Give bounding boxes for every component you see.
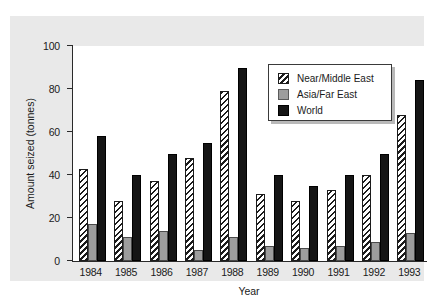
bar-asia-far-east-1991 <box>336 246 345 261</box>
bar-group-1985 <box>114 46 141 261</box>
bar-near-middle-east-1984 <box>79 169 88 261</box>
bar-near-middle-east-1991 <box>327 190 336 261</box>
bar-world-1984 <box>97 136 106 261</box>
bar-asia-far-east-1988 <box>229 237 238 261</box>
bar-asia-far-east-1986 <box>159 231 168 261</box>
y-tick-100: 100 <box>67 45 73 46</box>
bar-group-1986 <box>150 46 177 261</box>
bar-near-middle-east-1986 <box>150 181 159 261</box>
bar-asia-far-east-1984 <box>88 224 97 261</box>
bar-group-1984 <box>79 46 106 261</box>
y-tick-60: 60 <box>67 131 73 132</box>
y-tick-label-40: 40 <box>49 169 60 181</box>
bar-world-1985 <box>132 175 141 261</box>
legend-swatch-black-icon <box>278 105 289 116</box>
y-tick-0: 0 <box>67 260 73 261</box>
bar-near-middle-east-1990 <box>291 201 300 261</box>
y-tick-40: 40 <box>67 174 73 175</box>
bar-world-1991 <box>345 175 354 261</box>
y-axis-title: Amount seized (tonnes) <box>24 46 40 261</box>
bar-near-middle-east-1989 <box>256 194 265 261</box>
y-tick-80: 80 <box>67 88 73 89</box>
bar-world-1988 <box>238 68 247 262</box>
legend-item-world: World <box>278 102 391 118</box>
y-tick-label-60: 60 <box>49 126 60 138</box>
chart-panel: Amount seized (tonnes) 0 20 40 60 80 100 <box>10 16 424 281</box>
bar-near-middle-east-1993 <box>397 115 406 261</box>
bar-world-1989 <box>274 175 283 261</box>
bar-near-middle-east-1992 <box>362 175 371 261</box>
chart-legend: Near/Middle East Asia/Far East World <box>268 64 392 121</box>
bar-group-1993 <box>397 46 424 261</box>
y-tick-label-100: 100 <box>43 40 60 52</box>
bar-near-middle-east-1987 <box>185 158 194 261</box>
bar-asia-far-east-1992 <box>371 242 380 261</box>
bar-near-middle-east-1988 <box>220 91 229 261</box>
y-tick-label-20: 20 <box>49 212 60 224</box>
bar-group-1987 <box>185 46 212 261</box>
legend-swatch-hatched-icon <box>278 73 289 84</box>
bar-asia-far-east-1985 <box>123 237 132 261</box>
y-tick-label-80: 80 <box>49 83 60 95</box>
bar-world-1990 <box>309 186 318 261</box>
legend-swatch-gray-icon <box>278 89 289 100</box>
bar-asia-far-east-1987 <box>194 250 203 261</box>
bar-asia-far-east-1990 <box>300 248 309 261</box>
legend-item-asia-far-east: Asia/Far East <box>278 86 391 102</box>
legend-label-asia-far-east: Asia/Far East <box>297 89 357 100</box>
bar-group-1988 <box>220 46 247 261</box>
x-tick-label-1993: 1993 <box>386 266 432 278</box>
bar-near-middle-east-1985 <box>114 201 123 261</box>
bar-world-1992 <box>380 154 389 262</box>
bar-asia-far-east-1989 <box>265 246 274 261</box>
bar-world-1993 <box>415 80 424 261</box>
bar-world-1986 <box>168 154 177 262</box>
bar-world-1987 <box>203 143 212 261</box>
legend-item-near-middle-east: Near/Middle East <box>278 70 391 86</box>
bar-asia-far-east-1993 <box>406 233 415 261</box>
legend-label-world: World <box>297 105 323 116</box>
y-tick-20: 20 <box>67 217 73 218</box>
y-tick-label-0: 0 <box>54 255 60 267</box>
legend-label-near-middle-east: Near/Middle East <box>297 73 374 84</box>
x-axis-title: Year <box>72 285 426 297</box>
